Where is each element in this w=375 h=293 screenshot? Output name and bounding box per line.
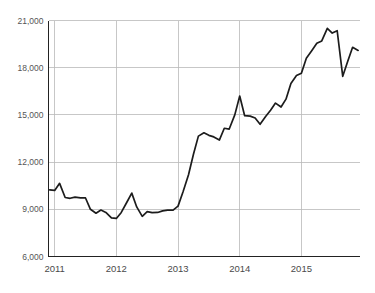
x-tick-label-2014: 2014: [229, 263, 250, 274]
y-tick-label-21,000: 21,000: [18, 16, 44, 26]
y-tick-label-15,000: 15,000: [18, 110, 44, 120]
y-tick-label-6,000: 6,000: [22, 252, 44, 262]
data-line-series-1: [50, 28, 358, 218]
x-tick-label-2015: 2015: [291, 263, 312, 274]
x-tick-label-2011: 2011: [44, 263, 64, 274]
x-tick-label-2012: 2012: [106, 263, 127, 274]
chart-canvas: 6,0009,00012,00015,00018,00021,000201120…: [0, 0, 375, 293]
x-tick-label-2013: 2013: [167, 263, 188, 274]
y-tick-label-9,000: 9,000: [22, 204, 44, 214]
y-tick-label-12,000: 12,000: [18, 157, 44, 167]
y-tick-label-18,000: 18,000: [18, 63, 44, 73]
line-chart: 6,0009,00012,00015,00018,00021,000201120…: [0, 0, 375, 293]
